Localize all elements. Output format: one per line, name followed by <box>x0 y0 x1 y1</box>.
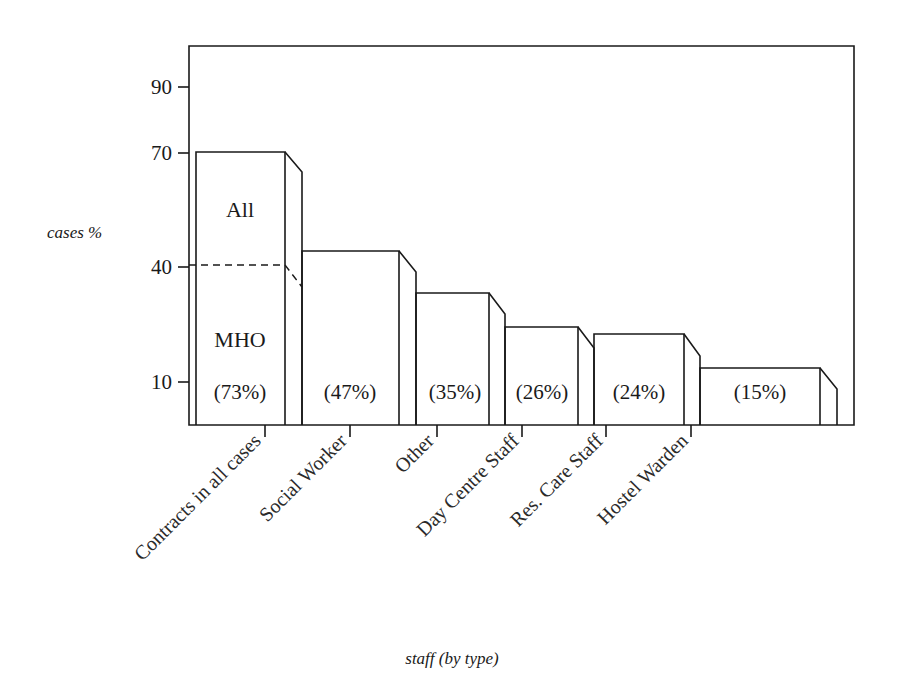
bar-group-5[interactable]: (24%) <box>594 334 700 425</box>
bar-group-2[interactable]: (47%) <box>302 251 416 425</box>
y-tick-label-70: 70 <box>151 141 172 165</box>
bar-3-side <box>489 293 505 425</box>
bar-6-value-label: (15%) <box>734 380 786 404</box>
category-label-2: Social Worker <box>255 429 351 525</box>
chart-container: 90 70 40 10 cases % staff (by type) All … <box>0 0 901 684</box>
y-tick-label-90: 90 <box>151 75 172 99</box>
bar-group-6[interactable]: (15%) <box>700 368 837 425</box>
category-label-6: Hostel Warden <box>592 429 691 528</box>
y-tick-label-10: 10 <box>151 370 172 394</box>
bar-5-value-label: (24%) <box>613 380 665 404</box>
bar-4-side <box>578 327 594 425</box>
bar-3-value-label: (35%) <box>429 380 481 404</box>
category-label-3: Other <box>390 429 438 477</box>
bar-4-front <box>505 327 578 425</box>
category-label-1: Contracts in all cases <box>129 429 264 564</box>
bar-1-segment-label-mho: MHO <box>214 327 265 352</box>
bar-group-1[interactable]: All MHO (73%) <box>189 152 302 425</box>
y-axis-ticks <box>178 87 189 382</box>
bar-6-side <box>820 368 837 425</box>
bar-2-side <box>399 251 416 425</box>
y-axis-title: cases % <box>47 223 102 242</box>
x-axis-title: staff (by type) <box>405 649 499 668</box>
bar-chart: 90 70 40 10 cases % staff (by type) All … <box>0 0 901 684</box>
bar-3-front <box>416 293 489 425</box>
bar-5-side <box>684 334 700 425</box>
bar-1-segment-label-all: All <box>226 197 254 222</box>
bar-1-side <box>285 152 302 425</box>
y-axis-tick-labels: 90 70 40 10 <box>151 75 172 394</box>
bar-group-3[interactable]: (35%) <box>416 293 505 425</box>
y-tick-label-40: 40 <box>151 255 172 279</box>
bar-4-value-label: (26%) <box>516 380 568 404</box>
bar-group-4[interactable]: (26%) <box>505 327 594 425</box>
x-axis-category-labels: Contracts in all cases Social Worker Oth… <box>129 429 691 565</box>
bar-1-value-label: (73%) <box>214 380 266 404</box>
bar-2-value-label: (47%) <box>324 380 376 404</box>
